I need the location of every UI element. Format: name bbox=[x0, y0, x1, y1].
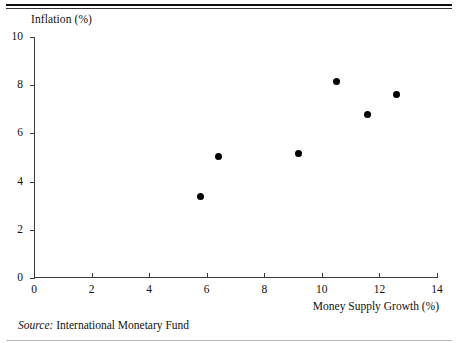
scatter-point bbox=[333, 78, 340, 85]
y-axis-tick: 2 bbox=[30, 230, 35, 231]
top-rule-thick bbox=[6, 4, 452, 6]
y-axis-tick: 6 bbox=[30, 133, 35, 134]
exhibit-figure: Inflation (%) 024681002468101214 Money S… bbox=[0, 0, 458, 343]
y-axis-tick-label: 10 bbox=[12, 31, 24, 43]
x-axis-tick bbox=[34, 273, 35, 278]
scatter-point bbox=[295, 150, 302, 157]
y-axis-tick-label: 8 bbox=[17, 79, 23, 91]
top-rule-thin bbox=[6, 8, 452, 9]
x-axis-tick-label: 14 bbox=[431, 284, 443, 296]
y-axis-line bbox=[34, 37, 35, 279]
scatter-point bbox=[393, 91, 400, 98]
x-axis-tick bbox=[437, 273, 438, 278]
bottom-rule bbox=[6, 340, 452, 341]
x-axis-tick-label: 0 bbox=[31, 284, 37, 296]
x-axis-tick-label: 4 bbox=[146, 284, 152, 296]
source-text: International Monetary Fund bbox=[56, 319, 189, 331]
x-axis-title: Money Supply Growth (%) bbox=[313, 300, 439, 312]
source-note: Source: International Monetary Fund bbox=[18, 319, 189, 331]
scatter-point bbox=[197, 193, 204, 200]
x-axis-tick-label: 10 bbox=[316, 284, 328, 296]
y-axis-title: Inflation (%) bbox=[31, 13, 92, 25]
x-axis-tick bbox=[322, 273, 323, 278]
x-axis-tick-label: 6 bbox=[204, 284, 210, 296]
x-axis-tick bbox=[92, 273, 93, 278]
scatter-plot-area: 024681002468101214 bbox=[34, 37, 437, 278]
source-label: Source: bbox=[18, 319, 53, 331]
y-axis-tick: 4 bbox=[30, 182, 35, 183]
x-axis-tick-label: 12 bbox=[374, 284, 386, 296]
y-axis-tick-label: 2 bbox=[17, 224, 23, 236]
y-axis-tick: 10 bbox=[30, 37, 35, 38]
scatter-point bbox=[215, 153, 222, 160]
y-axis-tick: 8 bbox=[30, 85, 35, 86]
x-axis-tick bbox=[379, 273, 380, 278]
x-axis-tick bbox=[264, 273, 265, 278]
y-axis-tick-label: 6 bbox=[17, 128, 23, 140]
x-axis-tick-label: 8 bbox=[261, 284, 267, 296]
x-axis-line bbox=[34, 277, 438, 278]
x-axis-tick-label: 2 bbox=[89, 284, 95, 296]
x-axis-tick bbox=[149, 273, 150, 278]
y-axis-tick-label: 0 bbox=[17, 272, 23, 284]
scatter-point bbox=[364, 111, 371, 118]
y-axis-tick: 0 bbox=[30, 278, 35, 279]
x-axis-tick bbox=[207, 273, 208, 278]
y-axis-tick-label: 4 bbox=[17, 176, 23, 188]
